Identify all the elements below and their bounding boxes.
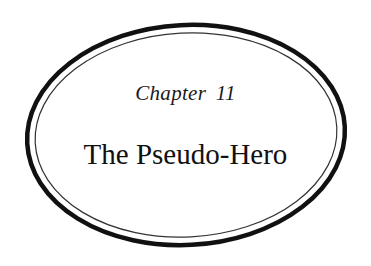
chapter-number: Chapter 11 <box>0 81 371 106</box>
chapter-title: The Pseudo-Hero <box>0 138 371 171</box>
oval-border <box>0 0 371 266</box>
outer-thick-oval <box>21 17 350 253</box>
